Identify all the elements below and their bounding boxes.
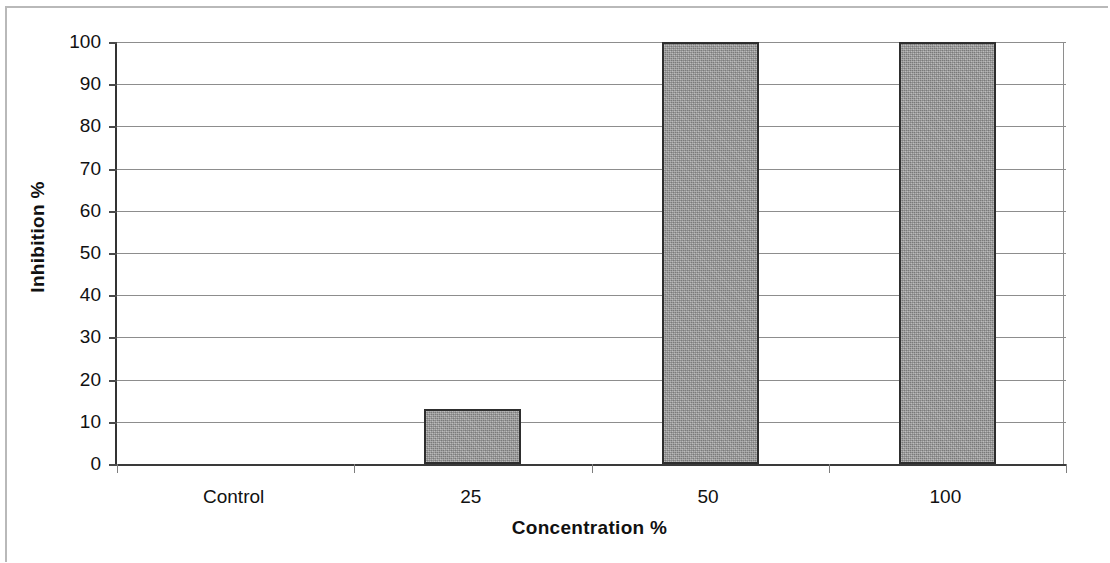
- bar-50: [662, 42, 759, 464]
- y-axis-tick-mark: [109, 253, 117, 255]
- plot-area: [115, 42, 1064, 464]
- x-axis-tick-mark: [592, 464, 593, 473]
- y-axis-tick-mark: [109, 211, 117, 213]
- x-axis-tick-label: Control: [115, 487, 352, 506]
- y-axis-tick-label: 60: [41, 201, 101, 220]
- bar-25: [424, 409, 521, 464]
- y-axis-tick-label: 20: [41, 370, 101, 389]
- y-axis-tick-mark: [109, 169, 117, 171]
- y-axis-tick-mark: [109, 380, 117, 382]
- x-axis-tick-mark: [117, 464, 118, 473]
- y-axis-tick-label: 50: [41, 243, 101, 262]
- y-axis-tick-label: 10: [41, 412, 101, 431]
- y-axis-tick-label: 90: [41, 74, 101, 93]
- y-axis-tick-label: 100: [41, 32, 101, 51]
- x-axis-tick-label: 25: [352, 487, 589, 506]
- x-axis-tick-mark: [829, 464, 830, 473]
- y-axis-tick-mark: [109, 464, 117, 466]
- y-axis-tick-label: 80: [41, 116, 101, 135]
- y-axis-tick-mark: [109, 42, 117, 44]
- y-axis-tick-label: 70: [41, 159, 101, 178]
- y-axis-tick-mark: [109, 337, 117, 339]
- y-axis-tick-mark: [109, 422, 117, 424]
- x-axis-tick-label: 100: [827, 487, 1064, 506]
- x-axis-tick-mark: [1066, 464, 1067, 473]
- y-axis-tick-mark: [109, 84, 117, 86]
- bar-chart: Inhibition % 1009080706050403020100 Cont…: [0, 0, 1110, 563]
- y-axis-tick-mark: [109, 295, 117, 297]
- scanned-page: Inhibition % 1009080706050403020100 Cont…: [0, 0, 1110, 563]
- x-axis-tick-mark: [354, 464, 355, 473]
- y-axis-tick-mark: [109, 126, 117, 128]
- y-axis-tick-label: 30: [41, 327, 101, 346]
- y-axis-title: Inhibition %: [27, 117, 49, 357]
- y-axis-tick-label: 40: [41, 285, 101, 304]
- x-axis-title: Concentration %: [115, 517, 1064, 539]
- y-axis-tick-label: 0: [41, 454, 101, 473]
- bar-100: [899, 42, 996, 464]
- x-axis-tick-label: 50: [590, 487, 827, 506]
